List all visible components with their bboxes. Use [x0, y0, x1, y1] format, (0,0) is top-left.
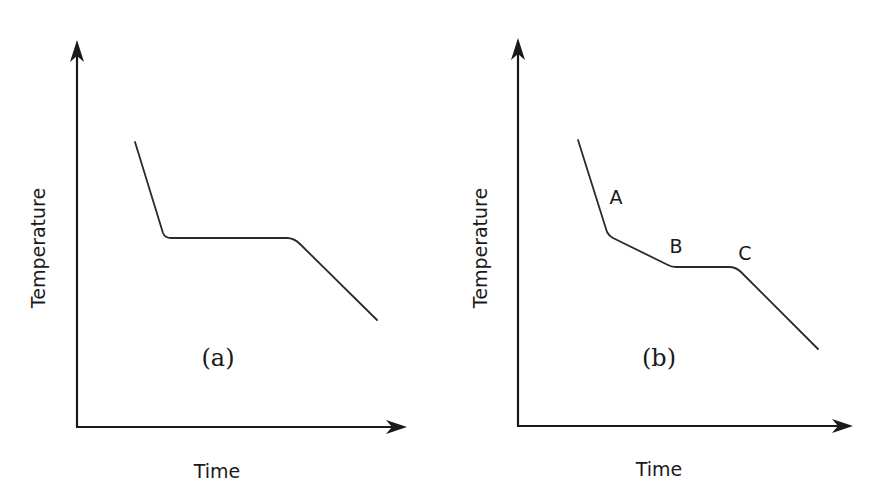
- cooling-curve: [135, 142, 377, 320]
- panel-a: Temperature Time (a): [27, 40, 407, 482]
- panel-label: (b): [642, 344, 676, 372]
- cooling-curve: [578, 140, 818, 349]
- point-label-a: A: [610, 186, 623, 208]
- panel-b: A B C Temperature Time (b): [469, 38, 853, 480]
- point-label-c: C: [738, 242, 751, 264]
- x-axis-label: Time: [635, 458, 683, 480]
- panel-label: (a): [201, 344, 234, 372]
- point-label-b: B: [669, 235, 682, 257]
- y-axis-label: Temperature: [27, 188, 49, 309]
- cooling-curves-figure: Temperature Time (a) A B C Temperature T…: [0, 0, 882, 499]
- y-axis-label: Temperature: [469, 188, 491, 309]
- x-axis-label: Time: [193, 460, 241, 482]
